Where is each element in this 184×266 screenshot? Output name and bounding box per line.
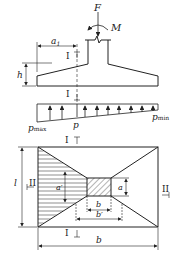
axial-force-arrow: F [93,2,102,36]
section-I-bottom-label: I [66,89,70,99]
moment-arrow: M [88,22,122,33]
section-II-left-label: II [29,178,37,188]
plan-section-I-bottom-label: I [65,228,69,238]
section-I-top-label: I [66,51,70,61]
b-label: b [96,235,102,245]
force-label: F [93,2,102,13]
h-label: h [17,70,23,80]
moment-label: M [110,22,122,33]
p-max-label: pmax [28,123,47,133]
plan-section-I-top-label: I [65,135,69,145]
b-prime-label: b′ [96,210,103,219]
p-label: p [73,120,79,130]
a1-label: a1 [51,36,60,47]
b-col-label: b [96,200,101,209]
a-label: a [118,183,123,192]
section-I-line [74,44,80,104]
column-section [87,178,111,196]
p-min-label: pmin [152,112,169,122]
section-II-right-label: II [162,184,170,194]
l-label: l [14,178,17,188]
hatched-trapezoid [38,151,88,223]
footing-diagram: F M a1 I I h pmax p [0,0,184,266]
a-prime-label: a′ [56,183,63,192]
base-pressure-diagram [37,104,158,122]
